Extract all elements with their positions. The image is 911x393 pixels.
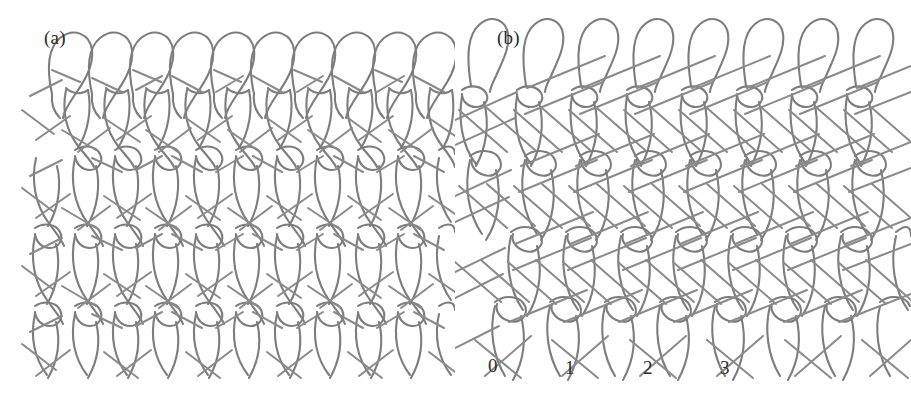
panel-b-needle-loops-1 — [462, 86, 872, 107]
panel-b-course-1-loops — [468, 19, 893, 92]
guide-bar-label-0: 0 — [488, 355, 498, 377]
knitted-structure-figure: (a) — [0, 0, 911, 393]
panel-a-legs-2 — [34, 158, 451, 246]
panel-a-legs-1 — [65, 90, 456, 167]
panel-a: (a) — [0, 0, 455, 393]
panel-b-label: (b) — [497, 27, 520, 49]
panel-b-diagram — [455, 0, 911, 393]
panel-a-label: (a) — [44, 27, 66, 49]
panel-a-course-1 — [49, 33, 455, 118]
panel-a-diagram — [0, 0, 455, 393]
guide-bar-label-1: 1 — [565, 357, 575, 379]
panel-a-inlay-yarns — [22, 70, 455, 378]
guide-bar-label-3: 3 — [720, 357, 730, 379]
panel-b: (b) 0 1 2 3 — [455, 0, 911, 393]
panel-a-legs-3 — [33, 236, 451, 324]
panel-a-needle-loops-1 — [66, 88, 452, 93]
guide-bar-label-2: 2 — [643, 357, 653, 379]
